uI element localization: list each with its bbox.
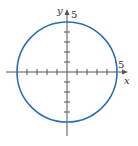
y-axis [64, 14, 70, 136]
x-axis [6, 69, 126, 75]
x-tick-label-5: 5 [118, 59, 124, 70]
y-axis-label: y [56, 5, 63, 16]
circle-graph: y 5 5 x [0, 0, 138, 146]
x-axis-label: x [124, 75, 130, 86]
x-arrow-icon [122, 70, 128, 75]
y-arrow-icon [65, 9, 70, 15]
y-tick-label-5: 5 [71, 9, 77, 20]
